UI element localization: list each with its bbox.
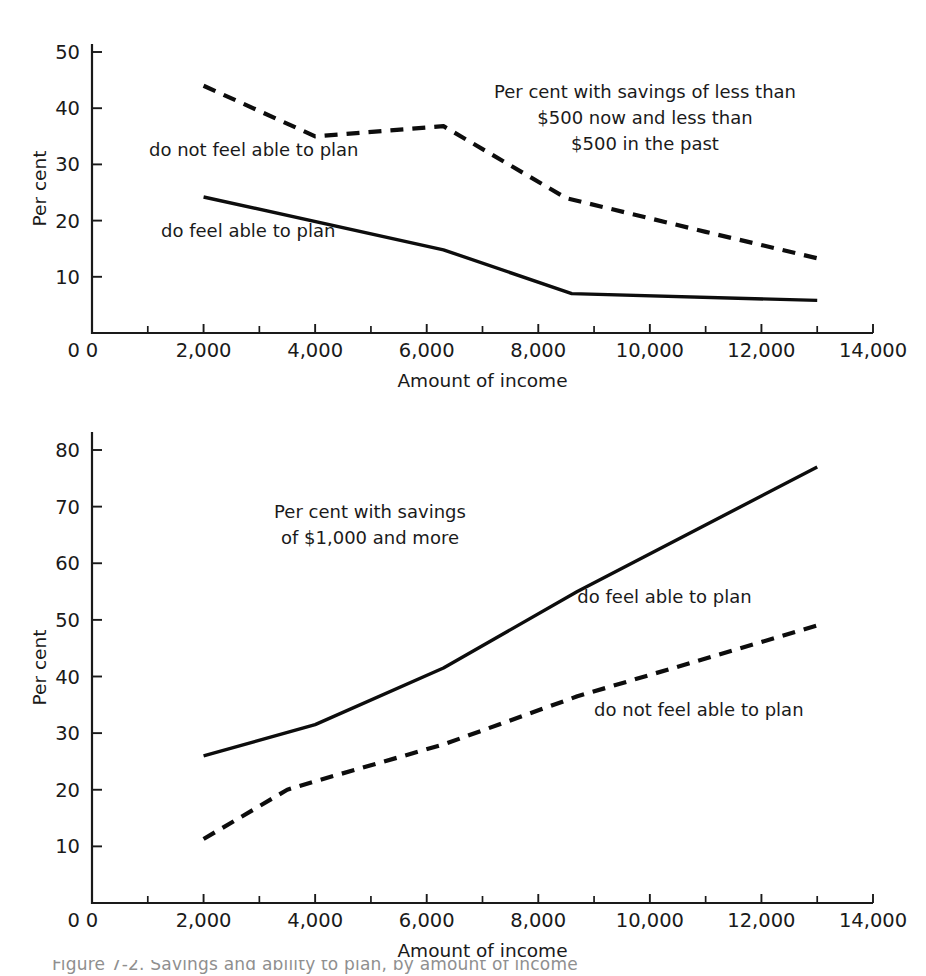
x-tick-label: 10,000 — [616, 339, 684, 362]
top-chart-svg: 02,0004,0006,0008,00010,00012,00014,0001… — [0, 0, 926, 400]
y-tick-label: 40 — [55, 666, 80, 689]
chart-axes — [92, 432, 873, 903]
chart-title-line: of $1,000 and more — [281, 527, 459, 548]
chart-title: Per cent with savings of less than$500 n… — [494, 81, 796, 154]
y-tick-label: 10 — [55, 835, 80, 858]
chart-title-line: $500 now and less than — [537, 107, 752, 128]
series-label: do feel able to plan — [161, 220, 335, 241]
series-line-dashed — [204, 626, 818, 839]
x-tick-label: 4,000 — [287, 339, 343, 362]
y-tick-label: 40 — [55, 97, 80, 120]
x-tick-label: 12,000 — [727, 339, 795, 362]
y-tick-label: 60 — [55, 552, 80, 575]
x-tick-label: 6,000 — [399, 909, 455, 932]
x-tick-label: 14,000 — [839, 909, 907, 932]
figure-caption-strip: Figure 7-2. Savings and ability to plan,… — [0, 960, 926, 976]
chart-panel-top: 02,0004,0006,0008,00010,00012,00014,0001… — [0, 0, 926, 400]
x-tick-label: 8,000 — [510, 909, 566, 932]
figure-caption: Figure 7-2. Savings and ability to plan,… — [52, 960, 578, 974]
series-label: do not feel able to plan — [594, 699, 803, 720]
x-axis-label: Amount of income — [397, 370, 567, 391]
series-label: do not feel able to plan — [149, 139, 358, 160]
chart-title-line: Per cent with savings — [274, 501, 466, 522]
y-tick-label: 30 — [55, 153, 80, 176]
x-tick-label: 10,000 — [616, 909, 684, 932]
x-tick-label: 0 — [86, 339, 98, 362]
chart-title-line: Per cent with savings of less than — [494, 81, 796, 102]
y-tick-label: 20 — [55, 779, 80, 802]
chart-title: Per cent with savingsof $1,000 and more — [274, 501, 466, 548]
x-tick-label: 2,000 — [176, 909, 232, 932]
chart-title-line: $500 in the past — [571, 133, 719, 154]
x-axis-label: Amount of income — [397, 940, 567, 961]
y-axis-label: Per cent — [29, 630, 50, 706]
series-label: do feel able to plan — [577, 586, 751, 607]
chart-panel-bottom: 02,0004,0006,0008,00010,00012,00014,0001… — [0, 400, 926, 976]
x-tick-label: 8,000 — [510, 339, 566, 362]
bottom-chart-svg: 02,0004,0006,0008,00010,00012,00014,0001… — [0, 400, 926, 976]
y-axis-label: Per cent — [29, 151, 50, 227]
y-zero-label: 0 — [68, 909, 80, 932]
x-tick-label: 14,000 — [839, 339, 907, 362]
y-tick-label: 70 — [55, 496, 80, 519]
x-tick-label: 4,000 — [287, 909, 343, 932]
series-line-solid — [204, 197, 818, 300]
x-tick-label: 6,000 — [399, 339, 455, 362]
y-zero-label: 0 — [68, 339, 80, 362]
y-tick-label: 10 — [55, 266, 80, 289]
y-tick-label: 80 — [55, 439, 80, 462]
figure-root: 02,0004,0006,0008,00010,00012,00014,0001… — [0, 0, 926, 976]
x-tick-label: 2,000 — [176, 339, 232, 362]
y-tick-label: 50 — [55, 41, 80, 64]
y-tick-label: 30 — [55, 722, 80, 745]
x-tick-label: 12,000 — [727, 909, 795, 932]
y-tick-label: 50 — [55, 609, 80, 632]
y-tick-label: 20 — [55, 210, 80, 233]
x-tick-label: 0 — [86, 909, 98, 932]
